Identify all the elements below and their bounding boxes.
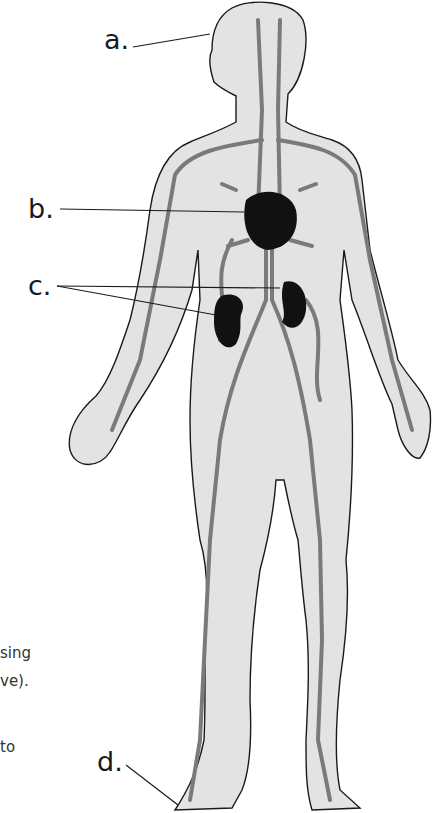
label-a: a.	[104, 26, 129, 53]
circulatory-system-figure	[0, 0, 438, 813]
label-c: c.	[28, 272, 51, 299]
label-b: b.	[28, 195, 54, 222]
label-d: d.	[97, 748, 123, 775]
cropped-text-1: sing	[0, 646, 31, 661]
cropped-text-2: ve).	[0, 674, 29, 689]
cropped-text-3: to	[0, 740, 15, 755]
